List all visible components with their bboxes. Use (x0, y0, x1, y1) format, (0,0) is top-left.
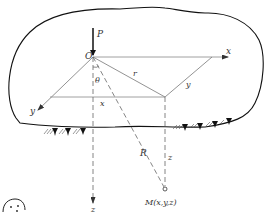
label-R: R (139, 148, 147, 158)
label-r: r (133, 69, 138, 78)
support-hatching-left (44, 129, 80, 134)
point-M (163, 187, 167, 191)
support-pins-left (52, 128, 86, 136)
label-y-axis: y (29, 106, 36, 116)
label-theta: θ (95, 76, 100, 85)
half-space-outline (9, 7, 263, 127)
y-axis (38, 57, 93, 110)
label-x-axis: x (226, 46, 231, 56)
support-pins-right (182, 118, 232, 131)
label-z-axis: z (90, 205, 96, 213)
label-point-M: M(x,y,z) (144, 198, 177, 207)
label-P: P (96, 29, 104, 39)
y-component-line (165, 57, 212, 97)
half-space-diagram: P O x y r x y θ z R z M(x,y,z) (0, 0, 264, 213)
label-z-component: z (167, 153, 173, 162)
face-icon (3, 199, 25, 212)
label-x-component: x (100, 99, 105, 108)
label-origin-O: O (85, 51, 93, 61)
label-y-component: y (185, 80, 191, 89)
r-line (93, 57, 165, 97)
